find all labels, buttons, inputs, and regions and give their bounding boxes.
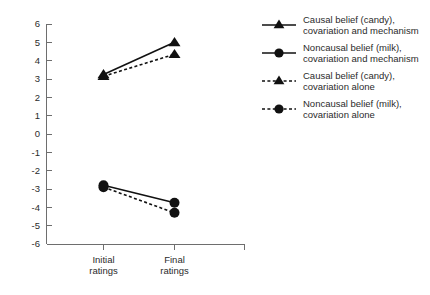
y-tick-label-neg3: -3 xyxy=(32,183,40,194)
chart-canvas: 6 5 4 3 2 1 0 -1 -2 -3 -4 -5 -6 Initial … xyxy=(0,0,430,295)
y-tick-label-5: 5 xyxy=(35,37,40,48)
y-tick-label-0: 0 xyxy=(35,128,40,139)
line-chart: 6 5 4 3 2 1 0 -1 -2 -3 -4 -5 -6 Initial … xyxy=(0,0,430,295)
x-label-initial-line1: Initial xyxy=(92,254,114,265)
marker-triangle-s0-p1 xyxy=(169,37,181,46)
x-label-initial-line2: ratings xyxy=(89,265,118,276)
y-tick-label-neg5: -5 xyxy=(32,220,40,231)
y-tick-label-2: 2 xyxy=(35,92,40,103)
legend-label-1-line1: Causal belief (candy), xyxy=(303,14,395,25)
y-tick-label-neg1: -1 xyxy=(32,147,40,158)
series-2 xyxy=(98,49,181,80)
marker-triangle-s2-p1 xyxy=(169,49,181,58)
y-tick-label-neg4: -4 xyxy=(32,202,40,213)
series-line-0 xyxy=(104,42,175,74)
legend-label-4-line1: Noncausal belief (milk), xyxy=(303,98,402,109)
x-axis-ticks xyxy=(104,245,245,251)
legend-triangle-icon-3 xyxy=(274,76,285,85)
legend-label-3-line1: Causal belief (candy), xyxy=(303,70,395,81)
marker-circle-s3-p1 xyxy=(170,208,180,218)
y-axis-ticks xyxy=(47,24,53,244)
legend-entry-noncausal-covariation-and-mechanism[interactable]: Noncausal belief (milk), covariation and… xyxy=(262,42,419,64)
legend-entry-noncausal-covariation-alone[interactable]: Noncausal belief (milk), covariation alo… xyxy=(262,98,402,120)
series-1 xyxy=(99,180,180,207)
legend-label-2-line1: Noncausal belief (milk), xyxy=(303,42,402,53)
y-tick-label-3: 3 xyxy=(35,73,40,84)
legend: Causal belief (candy), covariation and m… xyxy=(262,14,419,120)
y-axis-tick-labels: 6 5 4 3 2 1 0 -1 -2 -3 -4 -5 -6 xyxy=(32,18,40,249)
y-tick-label-neg6: -6 xyxy=(32,238,40,249)
series-layer xyxy=(98,37,181,218)
legend-entry-causal-covariation-alone[interactable]: Causal belief (candy), covariation alone xyxy=(262,70,395,92)
y-tick-label-neg2: -2 xyxy=(32,165,40,176)
legend-triangle-icon-1 xyxy=(274,20,285,29)
series-line-1 xyxy=(104,185,175,202)
series-0 xyxy=(98,37,181,78)
legend-entry-causal-covariation-and-mechanism[interactable]: Causal belief (candy), covariation and m… xyxy=(262,14,419,36)
x-label-final-line1: Final xyxy=(164,254,185,265)
y-tick-label-1: 1 xyxy=(35,110,40,121)
x-axis-category-labels: Initial ratings Final ratings xyxy=(89,254,189,276)
legend-circle-icon-4 xyxy=(274,104,283,113)
y-tick-label-4: 4 xyxy=(35,55,40,66)
marker-circle-s3-p0 xyxy=(99,182,109,192)
x-label-final-line2: ratings xyxy=(160,265,189,276)
marker-circle-s1-p1 xyxy=(170,198,180,208)
legend-label-2-line2: covariation and mechanism xyxy=(303,53,419,64)
legend-label-3-line2: covariation alone xyxy=(303,81,375,92)
legend-label-1-line2: covariation and mechanism xyxy=(303,25,419,36)
legend-circle-icon-2 xyxy=(274,48,283,57)
legend-label-4-line2: covariation alone xyxy=(303,109,375,120)
y-tick-label-6: 6 xyxy=(35,18,40,29)
